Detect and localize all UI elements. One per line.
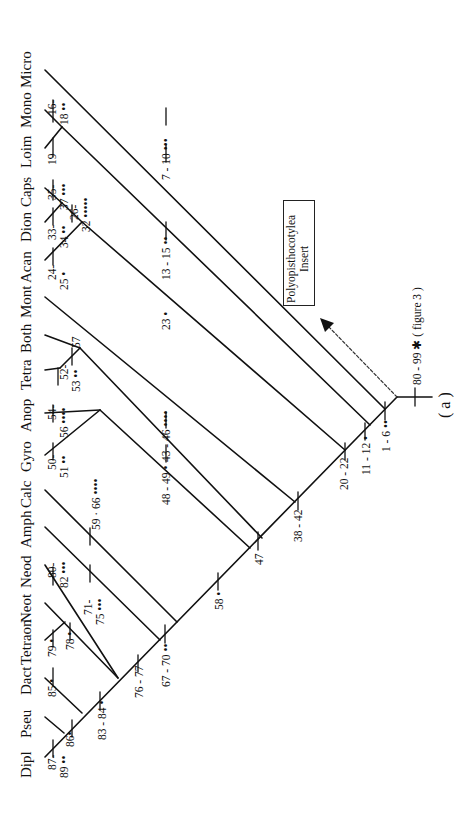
taxon-mont: Mont xyxy=(18,285,35,318)
char-neod-neot-b: 75 ••• xyxy=(94,599,106,625)
char-neod-b: 82 ••• xyxy=(58,562,70,588)
branch-neod xyxy=(45,565,118,678)
taxon-acan: Acan xyxy=(18,251,35,283)
branch-pseu xyxy=(45,717,64,733)
char-acan-b: 25 • xyxy=(58,272,70,290)
char-base-micro: 1 - 6 •• xyxy=(380,420,392,452)
char-pseu-dipl: 86• xyxy=(64,731,76,747)
taxon-pseu: Pseu xyxy=(18,710,35,738)
char-tetraon: 79 • xyxy=(46,639,58,657)
char-gyro-a: 50- xyxy=(46,455,58,470)
char-acan-clade: 13 - 15 •• xyxy=(160,236,172,280)
taxon-calc: Calc xyxy=(18,481,35,509)
char-base-dact: 83 - 84 • xyxy=(96,701,108,740)
char-caps-dion-b: 32 ••••• xyxy=(80,197,92,232)
char-base-calc: 58 • xyxy=(213,592,225,610)
insert-label-line2: Insert xyxy=(298,215,311,303)
char-base-gyro: 47 xyxy=(253,554,265,566)
taxon-dact: Dact xyxy=(18,667,35,695)
char-base-neot: 76 - 77 xyxy=(133,665,145,698)
taxon-neod: Neod xyxy=(18,556,35,589)
taxon-loim: Loim xyxy=(18,136,35,169)
char-caps-dion-a: 26- xyxy=(68,205,80,220)
taxon-tetraon: Tetraon xyxy=(18,619,35,665)
branch-mono-loim xyxy=(62,127,370,425)
char-tetra-clade: 43 - 46 •••• xyxy=(160,410,172,462)
char-neod-a: 80- xyxy=(46,563,58,578)
char-micro-side: 7 - 10 ••• xyxy=(160,138,172,180)
char-dipl-b: 89 •• xyxy=(58,756,70,778)
insert-label-line1: Polyopisthocotylea xyxy=(285,215,298,303)
branch-micro xyxy=(45,70,385,409)
char-base-loim: 11 - 12 • xyxy=(360,436,372,475)
branch-calc xyxy=(45,490,177,622)
char-anop-b: 56 •••• xyxy=(58,408,70,438)
char-tetra-b: 53 •• xyxy=(70,370,82,392)
char-mono-a: 16- xyxy=(46,100,58,115)
taxon-mono: Mono xyxy=(18,92,35,128)
taxon-tetra: Tetra xyxy=(18,359,35,390)
char-base-mont: 38 - 42 xyxy=(292,509,304,542)
taxon-amph: Amph xyxy=(18,511,35,549)
char-gyro-clade: 48 - 49 • xyxy=(160,466,172,505)
char-pseu: 85 • xyxy=(46,679,58,697)
taxon-both: Both xyxy=(18,324,35,353)
char-base-acan: 20 - 22 xyxy=(338,457,350,490)
char-tetra-a: 52- xyxy=(58,365,70,380)
char-mont: 23 • xyxy=(160,312,172,330)
char-gyro-b: 51 •• xyxy=(58,456,70,478)
char-loim: 19 xyxy=(46,154,58,166)
char-root: 80 - 99 ✱ ( figure 3 ) xyxy=(410,287,424,385)
char-anop-a: 54- xyxy=(46,405,58,420)
char-base-amph: 67 - 70 •• xyxy=(160,643,172,687)
char-both: 57 xyxy=(70,337,82,349)
char-caps-a: 35- xyxy=(46,185,58,200)
char-calc: 59 · 66 •••• xyxy=(90,478,102,530)
node-label-a: ( a ) xyxy=(436,392,454,418)
char-dion-b: 34 •• xyxy=(58,226,70,248)
char-dipl-a: 87- xyxy=(46,755,58,770)
char-tetraon-neot: 78 • xyxy=(64,632,76,650)
char-mono-b: 18 •• xyxy=(58,103,70,125)
insert-label: Polyopisthocotylea Insert xyxy=(285,215,311,303)
branch-gyro-clade xyxy=(100,410,250,548)
char-acan-a: 24- xyxy=(46,265,58,280)
char-neod-neot-a: 71- xyxy=(82,600,94,615)
taxon-caps: Caps xyxy=(18,177,35,207)
taxon-anop: Anop xyxy=(18,399,35,432)
taxon-dipl: Dipl xyxy=(18,751,35,778)
char-dion-a: 33- xyxy=(46,225,58,240)
branch-tetraon xyxy=(45,622,65,640)
cladogram-tree xyxy=(0,0,470,815)
taxon-gyro: Gyro xyxy=(18,441,35,472)
taxon-micro: Micro xyxy=(18,51,35,88)
taxon-dion: Dion xyxy=(18,212,35,242)
